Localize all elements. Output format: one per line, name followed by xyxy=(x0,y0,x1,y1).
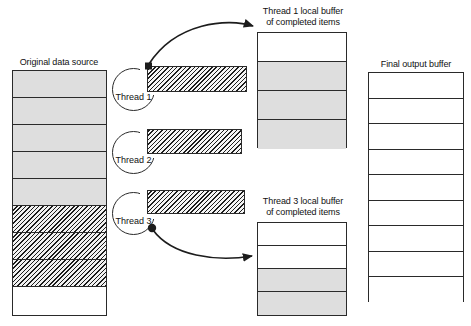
arrow-layer xyxy=(0,0,471,326)
thread-pipeline-diagram: Original data source Thread 1 Thread 2 T… xyxy=(0,0,471,326)
thread3-arrow-origin-dot xyxy=(148,224,156,232)
thread3-to-buffer-arrow xyxy=(153,230,252,258)
thread1-to-buffer-arrow xyxy=(149,23,253,64)
